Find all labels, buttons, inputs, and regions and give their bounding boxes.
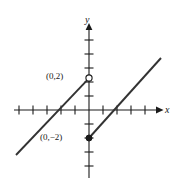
closed-endpoint-marker xyxy=(86,135,92,141)
x-axis-arrowhead xyxy=(156,107,164,114)
coordinate-graph-figure: y x (0,2) (0,−2) xyxy=(0,0,178,189)
open-point-label: (0,2) xyxy=(46,72,63,81)
y-axis-label: y xyxy=(85,15,89,25)
line-segment-right-branch xyxy=(89,58,161,138)
open-endpoint-marker xyxy=(86,75,92,81)
closed-point-label: (0,−2) xyxy=(40,133,62,142)
x-axis-label: x xyxy=(165,105,169,115)
line-segment-left-branch xyxy=(16,80,87,155)
graph-canvas xyxy=(0,0,178,189)
